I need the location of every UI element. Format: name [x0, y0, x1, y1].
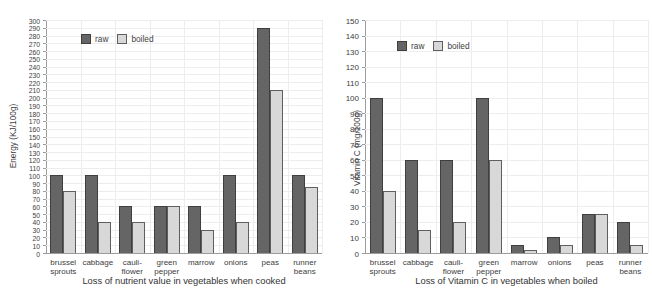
- legend-label: raw: [95, 34, 108, 44]
- y-tick-label: 40: [333, 187, 359, 196]
- gridline-v: [507, 20, 508, 253]
- legend-swatch-raw: [397, 41, 407, 51]
- bar-raw: [223, 175, 236, 253]
- y-tick-label: 100: [333, 94, 359, 103]
- bar-boiled: [453, 222, 466, 253]
- gridline-v: [184, 20, 185, 253]
- bar-boiled: [560, 245, 573, 253]
- bar-boiled: [630, 245, 643, 253]
- chart-title: Loss of Vitamin C in vegetables when boi…: [415, 276, 597, 286]
- y-axis-title: Vitamin C (mg/100g): [352, 110, 362, 186]
- bar-boiled: [524, 250, 537, 253]
- gridline-v: [542, 20, 543, 253]
- gridline-v: [613, 20, 614, 253]
- bar-raw: [617, 222, 630, 253]
- bar-raw: [582, 214, 595, 253]
- y-tick-label: 120: [333, 63, 359, 72]
- gridline-v: [577, 20, 578, 253]
- gridline-v: [81, 20, 82, 253]
- x-axis-line: [365, 253, 648, 254]
- bar-raw: [119, 206, 132, 253]
- figure: 0102030405060708090100110120130140150160…: [0, 0, 652, 299]
- y-tick-label: 150: [333, 16, 359, 25]
- y-tick-label: 140: [333, 32, 359, 41]
- y-tick: [362, 253, 365, 254]
- bar-boiled: [167, 206, 180, 253]
- bar-boiled: [418, 230, 431, 253]
- y-axis-line: [365, 20, 366, 254]
- y-tick-label: 110: [333, 78, 359, 87]
- bar-boiled: [236, 222, 249, 253]
- y-tick-label: 130: [333, 47, 359, 56]
- y-tick-label: 30: [333, 202, 359, 211]
- legend-swatch-raw: [81, 34, 91, 44]
- x-category-label: runner beans: [609, 258, 652, 276]
- vitamin-c-bar-chart: 0102030405060708090100110120130140150bru…: [0, 0, 652, 299]
- bar-boiled: [595, 214, 608, 253]
- gridline-v: [471, 20, 472, 253]
- gridline-v: [436, 20, 437, 253]
- gridline-v: [150, 20, 151, 253]
- bar-raw: [547, 237, 560, 253]
- legend-label: boiled: [131, 34, 153, 44]
- legend-swatch-boiled: [433, 41, 443, 51]
- legend-swatch-boiled: [117, 34, 127, 44]
- bar-boiled: [98, 222, 111, 253]
- gridline-v: [288, 20, 289, 253]
- y-tick-label: 0: [333, 249, 359, 258]
- bar-raw: [85, 175, 98, 253]
- gridline-v: [115, 20, 116, 253]
- bar-boiled: [201, 230, 214, 253]
- legend-item-boiled: boiled: [117, 34, 153, 44]
- y-tick-label: 20: [333, 218, 359, 227]
- bar-boiled: [63, 191, 76, 253]
- bar-raw: [292, 175, 305, 253]
- bar-boiled: [383, 191, 396, 253]
- bar-raw: [154, 206, 167, 253]
- bar-raw: [440, 160, 453, 253]
- y-tick-label: 10: [333, 233, 359, 242]
- bar-raw: [188, 206, 201, 253]
- legend: rawboiled: [397, 41, 470, 51]
- bar-boiled: [489, 160, 502, 253]
- bar-raw: [257, 28, 270, 253]
- bar-boiled: [270, 90, 283, 253]
- gridline-v: [219, 20, 220, 253]
- gridline-v: [253, 20, 254, 253]
- legend-item-raw: raw: [397, 41, 424, 51]
- gridline-v: [648, 20, 649, 253]
- legend-item-raw: raw: [81, 34, 108, 44]
- legend: rawboiled: [81, 34, 154, 44]
- bar-raw: [405, 160, 418, 253]
- gridline-v: [322, 20, 323, 253]
- bar-boiled: [305, 187, 318, 253]
- bar-raw: [370, 98, 383, 253]
- legend-label: raw: [411, 41, 424, 51]
- legend-item-boiled: boiled: [433, 41, 469, 51]
- bar-raw: [476, 98, 489, 253]
- bar-raw: [50, 175, 63, 253]
- bar-raw: [511, 245, 524, 253]
- legend-label: boiled: [447, 41, 469, 51]
- bar-boiled: [132, 222, 145, 253]
- gridline-v: [400, 20, 401, 253]
